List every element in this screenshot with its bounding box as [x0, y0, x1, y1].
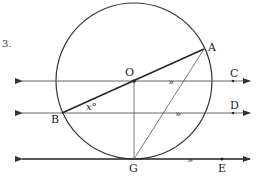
label-g: G [129, 162, 138, 175]
point-d [232, 112, 235, 115]
parallel-mark-bd: » [175, 108, 181, 119]
problem-number: 3. [2, 38, 12, 49]
label-a: A [207, 41, 217, 54]
geometry-diagram: 3. » » » A B C D E G O x° [0, 0, 262, 183]
angle-label-x: x° [86, 101, 97, 112]
point-o [132, 79, 136, 83]
label-c: C [230, 67, 238, 80]
point-c [232, 80, 235, 83]
label-b: B [51, 113, 59, 126]
parallel-mark-oc: » [168, 76, 174, 87]
label-o: O [125, 66, 134, 79]
parallel-mark-ge: » [187, 154, 193, 165]
point-e [221, 158, 224, 161]
label-e: E [218, 162, 226, 175]
label-d: D [230, 99, 239, 112]
